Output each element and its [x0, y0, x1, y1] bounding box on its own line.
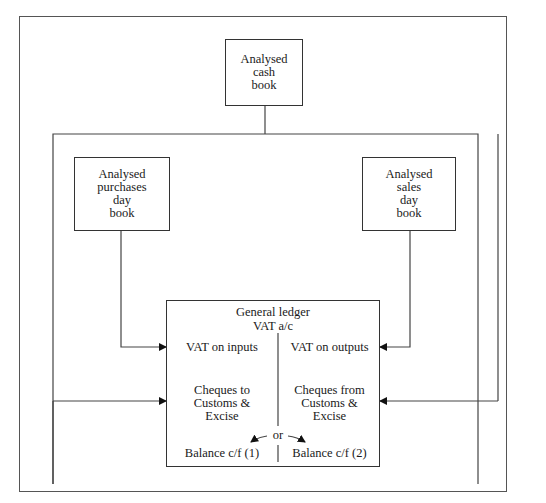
vat-on-inputs: VAT on inputs — [168, 341, 276, 354]
vat-on-outputs: VAT on outputs — [281, 341, 378, 354]
purchases-day-book-node: Analysed purchases day book — [74, 157, 170, 231]
ledger-title: General ledger — [166, 306, 380, 319]
node-label: book — [397, 207, 422, 220]
node-label: book — [110, 207, 135, 220]
node-label: book — [252, 79, 277, 92]
balance-cf-1: Balance c/f (1) — [168, 447, 276, 460]
cheques-to-customs: Cheques to Customs & Excise — [168, 384, 276, 423]
cheques-from-customs: Cheques from Customs & Excise — [281, 384, 378, 423]
cash-book-node: Analysed cash book — [225, 39, 303, 106]
or-label: or — [268, 429, 288, 442]
ledger-text: Excise — [168, 410, 276, 423]
sales-day-book-node: Analysed sales day book — [362, 157, 456, 231]
balance-cf-2: Balance c/f (2) — [281, 447, 378, 460]
ledger-subtitle: VAT a/c — [166, 320, 380, 333]
ledger-text: Excise — [281, 410, 378, 423]
